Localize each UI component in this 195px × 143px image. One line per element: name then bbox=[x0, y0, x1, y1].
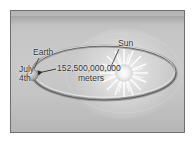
sun-label: Sun bbox=[118, 39, 133, 48]
distance-units-label: meters bbox=[57, 74, 125, 83]
diagram-border: Sun Earth July 4th 152,500,000,000 meter… bbox=[10, 10, 185, 133]
figure-frame: Sun Earth July 4th 152,500,000,000 meter… bbox=[0, 0, 195, 143]
distance-arrow bbox=[38, 69, 56, 73]
date-label-line2: 4th bbox=[19, 74, 31, 83]
distance-value-label: 152,500,000,000 bbox=[57, 64, 121, 73]
earth-label: Earth bbox=[33, 48, 53, 57]
